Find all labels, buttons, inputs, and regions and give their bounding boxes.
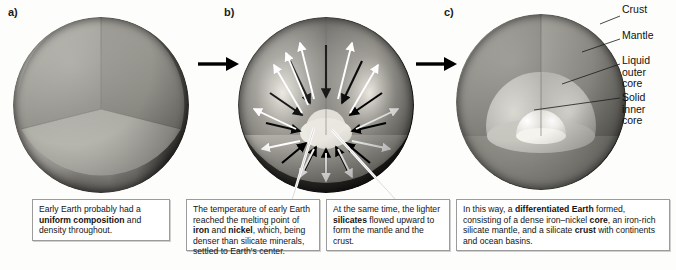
layer-label-crust: Crust (622, 4, 647, 16)
globe-a-cutaway (13, 17, 189, 193)
arrow-a-to-b (196, 53, 240, 75)
caption-box-c: In this way, a differentiated Earth form… (456, 199, 670, 251)
panel-letter-c: c) (444, 6, 454, 18)
arrow-b-to-c (414, 53, 458, 75)
leader-lines-panel-b (236, 120, 456, 202)
layer-label-liquid-outer-core: Liquid outer core (622, 55, 650, 90)
globe-panel-a (13, 17, 189, 193)
panel-letter-b: b) (224, 6, 234, 18)
layer-label-mantle: Mantle (622, 30, 654, 42)
caption-box-a: Early Earth probably had a uniform compo… (32, 199, 170, 241)
caption-box-b1: The temperature of early Earth reached t… (186, 199, 320, 251)
layer-label-solid-inner-core: Solid inner core (622, 92, 645, 127)
leader-lines-layers (520, 6, 630, 136)
caption-box-b2: At the same time, the lighter silicates … (326, 199, 450, 251)
figure-canvas: a) (0, 0, 676, 270)
